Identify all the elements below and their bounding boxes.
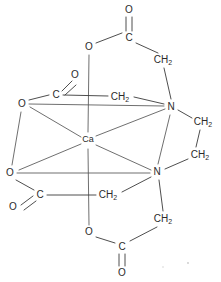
atom-label-oxygen-carbonyl-top: O	[125, 4, 133, 15]
atom-label-carbon-top: C	[125, 32, 132, 43]
bond-oxygen-upper-left-to-carbon-upper-left	[29, 95, 49, 100]
bond-ca-to-nitrogen-upper	[96, 109, 165, 136]
bond-carbon-lower-left-carbonyl-double-b	[24, 201, 36, 210]
atom-label-methylene-lower-right: CH2	[154, 213, 172, 225]
edge-oxygen-upper-left-to-nitrogen-upper	[29, 104, 164, 106]
bond-nitrogen-lower-to-methylene-lower-right	[159, 180, 163, 211]
atom-label-methylene-bridge-bottom: CH2	[191, 149, 209, 161]
bond-ca-to-ester-oxygen-top	[88, 55, 89, 132]
atom-label-oxygen-coord-lower-left: O	[6, 167, 14, 178]
atom-label-nitrogen-upper: N	[167, 101, 174, 112]
bond-methylene-lower-center-to-nitrogen-lower	[122, 177, 151, 192]
atom-label-nitrogen-lower: N	[153, 166, 160, 177]
bond-ester-oxygen-top-to-carbon-top	[96, 33, 122, 43]
bond-bridge-methylene-top-to-bottom	[196, 130, 200, 147]
bond-carbon-top-to-methylene-upper-right	[136, 43, 158, 53]
scan-speck	[187, 262, 189, 264]
edge-oxygen-upper-left-to-oxygen-lower-left	[12, 112, 21, 165]
atom-label-oxygen-coord-upper-left: O	[18, 98, 26, 109]
bond-carbon-lower-left-carbonyl-double-a	[21, 196, 33, 205]
atom-label-oxygen-ester-bottom: O	[85, 226, 93, 237]
atom-label-methylene-upper-center: CH2	[111, 91, 129, 103]
atom-label-methylene-upper-right: CH2	[154, 54, 172, 66]
bond-methylene-lower-right-to-carbon-bottom	[130, 227, 157, 241]
scan-speck	[162, 266, 163, 267]
bond-ca-to-nitrogen-lower	[96, 145, 151, 170]
bond-bridge-methylene-bottom-to-nitrogen-lower	[165, 159, 188, 169]
bond-oxygen-lower-left-to-carbon-lower-left	[16, 180, 34, 190]
bond-ester-oxygen-bottom-to-carbon-bottom	[96, 237, 115, 243]
bond-methylene-upper-right-to-nitrogen-upper	[164, 68, 171, 99]
bond-carbon-upper-left-to-methylene-upper-center	[63, 95, 108, 96]
atom-label-carbon-bottom: C	[118, 241, 125, 252]
atom-label-calcium: Ca	[82, 134, 94, 144]
acetate-arm-upper-left	[29, 81, 164, 104]
atom-label-oxygen-ester-top: O	[85, 41, 93, 52]
bond-nitrogen-upper-to-bridge-methylene-top	[178, 110, 192, 118]
atom-label-oxygen-carbonyl-lower-left: O	[9, 201, 17, 212]
atom-label-oxygen-carbonyl-upper-left: O	[71, 69, 79, 80]
bond-ca-to-oxygen-upper-left	[30, 107, 81, 137]
bond-methylene-upper-center-to-nitrogen-upper	[134, 97, 164, 104]
atom-label-methylene-lower-center: CH2	[99, 189, 117, 201]
bond-ca-to-ester-oxygen-bottom	[88, 149, 89, 225]
bond-ca-to-oxygen-lower-left	[19, 144, 81, 170]
structure-figure-canvas: Ca N N O O O O O O O O C C C C CH2 CH2 C…	[0, 0, 221, 282]
edge-nitrogen-upper-to-nitrogen-lower	[158, 115, 170, 164]
atom-label-oxygen-carbonyl-bottom: O	[118, 267, 126, 278]
atom-label-carbon-upper-left: C	[52, 89, 59, 100]
ca-edta-structure-svg: Ca N N O O O O O O O O C C C C CH2 CH2 C…	[0, 0, 221, 282]
atom-label-carbon-lower-left: C	[36, 189, 43, 200]
atom-label-methylene-bridge-top: CH2	[194, 116, 212, 128]
